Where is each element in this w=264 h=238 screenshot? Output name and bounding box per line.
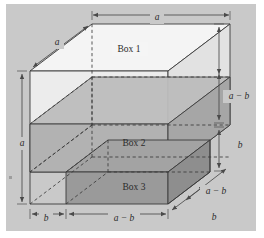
dim-depth-a-b-label: a − b bbox=[206, 186, 227, 196]
dim-bottom-a-b-label: a − b bbox=[114, 213, 135, 223]
dim-top-a-label: a bbox=[155, 12, 160, 22]
geometry-figure: Box 1 Box 2 Box 3 a a a a − b b b a − b … bbox=[0, 0, 264, 238]
dim-depth-b-label: b bbox=[212, 212, 217, 222]
dim-depth-a-label: a bbox=[55, 37, 60, 47]
box-1-label: Box 1 bbox=[118, 44, 141, 54]
dim-right-b-label: b bbox=[238, 140, 243, 150]
box-3-label: Box 3 bbox=[123, 182, 146, 192]
dim-left-a-label: a bbox=[20, 138, 25, 148]
dim-right-a-b-label: a − b bbox=[229, 91, 250, 101]
dim-bottom-b-label: b bbox=[44, 213, 49, 223]
scan-artifact-mark bbox=[9, 176, 12, 179]
box-2-label: Box 2 bbox=[123, 138, 146, 148]
box3-front-face bbox=[66, 172, 168, 204]
